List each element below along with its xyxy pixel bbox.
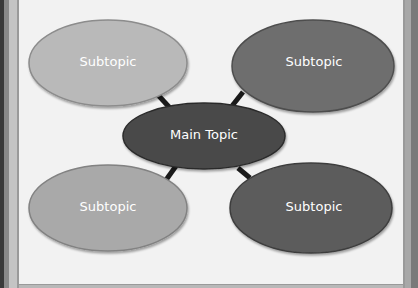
frame-border-bottom — [19, 284, 403, 288]
subtopic-node-top-left[interactable]: Subtopic — [29, 20, 187, 106]
subtopic-node-bottom-left[interactable]: Subtopic — [29, 165, 187, 251]
subtopic-node-bottom-right[interactable]: Subtopic — [230, 163, 392, 253]
subtopic-node-top-right[interactable]: Subtopic — [232, 20, 394, 112]
frame-border-right — [411, 0, 418, 288]
main-topic-label: Main Topic — [170, 127, 238, 142]
subtopic-label: Subtopic — [286, 54, 343, 69]
connector-bottom-left — [166, 166, 176, 180]
subtopic-label: Subtopic — [80, 54, 137, 69]
connector-top-right — [232, 92, 243, 106]
subtopic-label: Subtopic — [286, 199, 343, 214]
connector-bottom-right — [238, 168, 250, 178]
mind-map-diagram: Subtopic Subtopic Subtopic Subtopic Main… — [0, 0, 418, 288]
subtopic-label: Subtopic — [80, 199, 137, 214]
frame-border-left — [17, 0, 19, 288]
frame-border-left — [9, 0, 17, 288]
main-topic-node[interactable]: Main Topic — [123, 103, 285, 169]
mind-map-frame: Subtopic Subtopic Subtopic Subtopic Main… — [0, 0, 418, 288]
